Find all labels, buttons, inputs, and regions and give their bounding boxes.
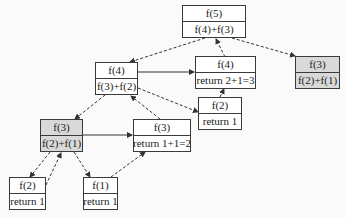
node-body: return 1 [84,194,117,209]
edge-f3-to-f2-bottom [30,152,50,177]
node-body: f(3)+f(2) [96,79,137,94]
node-f3-shaded-right: f(3) f(2)+f(1) [295,56,340,89]
node-title: f(3) [296,57,339,73]
node-f2-return-mid: f(2) return 1 [198,97,242,130]
edge-f1-to-f3ret [111,152,145,177]
edges-layer [0,0,346,218]
node-body: return 1 [199,114,241,129]
node-body: return 1+1=2 [134,136,190,151]
edge-f5-to-f3-right [232,38,295,56]
edge-f3ret-to-f4 [131,96,160,119]
edge-f2-to-f4ret [220,89,224,97]
edge-f3-to-f1 [74,152,90,177]
node-title: f(5) [183,6,245,22]
node-title: f(2) [10,178,45,194]
node-f2-return-bottom: f(2) return 1 [9,177,46,210]
node-title: f(3) [134,120,190,136]
edge-f2-bottom-to-f3 [46,153,61,185]
node-body: return 2+1=3 [196,73,255,88]
node-body: f(4)+f(3) [183,22,245,37]
node-title: f(1) [84,178,117,194]
node-title: f(2) [199,98,241,114]
node-f3-return: f(3) return 1+1=2 [133,119,191,152]
node-title: f(4) [96,63,137,79]
node-body: f(2)+f(1) [41,136,82,151]
node-title: f(4) [196,57,255,73]
node-f4: f(4) f(3)+f(2) [95,62,138,95]
node-body: return 1 [10,194,45,209]
node-title: f(3) [41,120,82,136]
edge-f4ret-to-f5 [216,39,225,57]
node-body: f(2)+f(1) [296,73,339,88]
node-f3-shaded-left: f(3) f(2)+f(1) [40,119,83,152]
node-f4-return: f(4) return 2+1=3 [195,56,256,89]
edge-f4-to-f3-left [75,95,105,119]
node-f1-return: f(1) return 1 [83,177,118,210]
edge-f5-to-f4 [130,38,205,62]
node-f5: f(5) f(4)+f(3) [182,5,246,38]
